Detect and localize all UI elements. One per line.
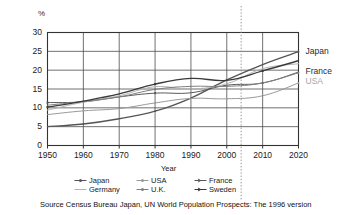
x-axis-tick-label: 1980 bbox=[139, 150, 171, 160]
legend-item-uk[interactable]: U.K. bbox=[136, 185, 194, 194]
marker-dot-icon bbox=[136, 177, 149, 184]
x-axis-tick-label: 1970 bbox=[103, 150, 135, 160]
legend-item-usa[interactable]: USA bbox=[136, 176, 194, 185]
x-axis-tick-label: 1960 bbox=[67, 150, 99, 160]
grid-lines bbox=[48, 33, 299, 146]
legend-item-japan[interactable]: Japan bbox=[74, 176, 136, 185]
legend-item-label: France bbox=[209, 176, 232, 185]
legend-item-label: USA bbox=[151, 176, 166, 185]
marker-dot-icon bbox=[74, 177, 87, 184]
chart-container: % 051015202530 1950196019701980199020002… bbox=[0, 0, 340, 215]
series-end-label: USA bbox=[306, 76, 323, 86]
legend-item-label: Sweden bbox=[209, 185, 236, 194]
x-axis-tick-label: 1950 bbox=[32, 150, 64, 160]
legend-item-label: U.K. bbox=[151, 185, 166, 194]
marker-plain-icon bbox=[74, 186, 87, 193]
plot-frame bbox=[48, 33, 299, 149]
marker-arrow-icon bbox=[194, 186, 207, 193]
y-axis-tick-label: 0 bbox=[22, 140, 42, 150]
x-axis-tick-label: 2020 bbox=[283, 150, 315, 160]
y-axis-tick-label: 5 bbox=[22, 121, 42, 131]
chart-legend: JapanUSAFranceGermanyU.K.Sweden bbox=[74, 176, 264, 194]
y-axis-tick-label: 15 bbox=[22, 84, 42, 94]
marker-arrow-icon bbox=[194, 177, 207, 184]
y-axis-tick-label: 10 bbox=[22, 102, 42, 112]
marker-dot-icon bbox=[136, 186, 149, 193]
y-axis-tick-label: 30 bbox=[22, 27, 42, 37]
series-sweden bbox=[47, 61, 299, 108]
legend-item-germany[interactable]: Germany bbox=[74, 185, 136, 194]
x-axis-tick-label: 2010 bbox=[247, 150, 279, 160]
y-axis-tick-label: 25 bbox=[22, 46, 42, 56]
source-note: Source Census Bureau Japan, UN World Pop… bbox=[40, 200, 312, 209]
x-axis-tick-label: 1990 bbox=[175, 150, 207, 160]
series-end-label: France bbox=[306, 66, 332, 76]
series-end-label: Japan bbox=[306, 46, 329, 56]
legend-item-label: Germany bbox=[89, 185, 120, 194]
y-axis-tick-label: 20 bbox=[22, 65, 42, 75]
x-axis-title: Year bbox=[161, 164, 176, 173]
legend-item-france[interactable]: France bbox=[194, 176, 258, 185]
x-axis-tick-label: 2000 bbox=[211, 150, 243, 160]
legend-item-sweden[interactable]: Sweden bbox=[194, 185, 258, 194]
legend-item-label: Japan bbox=[89, 176, 109, 185]
